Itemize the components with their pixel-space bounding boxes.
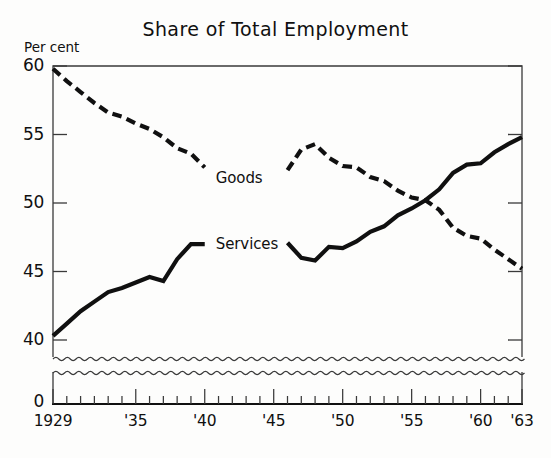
y-tick-label: 50 <box>10 192 44 212</box>
x-tick-label: '63 <box>492 412 551 430</box>
plot-frame <box>52 66 523 404</box>
chart-page: Share of Total Employment Per cent 60555… <box>0 0 551 458</box>
axis-break-wavy-lines <box>53 357 525 374</box>
x-tick-label: '35 <box>106 412 166 430</box>
x-tick-label: 1929 <box>23 412 83 430</box>
y-tick-label: 60 <box>10 55 44 75</box>
chart-plot-area <box>0 0 551 458</box>
series-label-goods: Goods <box>216 169 263 187</box>
y-axis-ticks <box>53 66 522 340</box>
x-tick-label: '55 <box>382 412 442 430</box>
y-tick-label: 45 <box>10 261 44 281</box>
y-tick-label: 40 <box>10 329 44 349</box>
x-tick-label: '45 <box>244 412 304 430</box>
y-tick-label: 55 <box>10 124 44 144</box>
y-tick-label: 0 <box>10 391 44 411</box>
data-series-lines <box>53 69 522 336</box>
series-label-services: Services <box>216 235 278 253</box>
x-axis-ticks <box>53 389 522 404</box>
x-tick-label: '40 <box>175 412 235 430</box>
x-tick-label: '50 <box>313 412 373 430</box>
